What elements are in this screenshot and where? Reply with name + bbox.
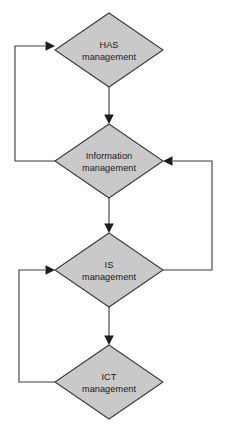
- arrowhead-into-is-top: [104, 224, 114, 234]
- edge-has-to-information: [104, 87, 114, 124]
- edge-information-to-has-feedback: [15, 41, 55, 161]
- edge-line-ict-to-is-feedback: [19, 270, 55, 382]
- node-ict-management[interactable]: ICT management: [55, 345, 163, 419]
- node-label-has-line1: HAS: [99, 40, 118, 50]
- arrowhead-into-information-right: [163, 156, 173, 166]
- edge-is-to-ict: [104, 307, 114, 345]
- node-label-ict-line2: management: [82, 384, 137, 394]
- diamond-shape-information[interactable]: [55, 124, 163, 198]
- node-label-has-line2: management: [82, 52, 137, 62]
- node-label-is-line2: management: [82, 272, 137, 282]
- edge-ict-to-is-feedback: [19, 265, 55, 382]
- diamond-shape-ict[interactable]: [55, 345, 163, 419]
- arrowhead-into-information-top: [104, 115, 114, 125]
- arrowhead-into-is-left: [46, 265, 56, 275]
- flowchart-canvas: HAS management Information management IS…: [0, 0, 228, 432]
- node-label-ict-line1: ICT: [102, 372, 117, 382]
- arrowhead-into-ict-top: [104, 336, 114, 346]
- node-label-is-line1: IS: [105, 260, 114, 270]
- edge-information-to-is: [104, 198, 114, 233]
- edge-line-information-to-has-feedback: [15, 46, 55, 161]
- edge-is-to-information-feedback: [163, 156, 212, 270]
- node-label-information-line2: management: [82, 163, 137, 173]
- node-has-management[interactable]: HAS management: [55, 13, 163, 87]
- node-is-management[interactable]: IS management: [55, 233, 163, 307]
- diamond-shape-is[interactable]: [55, 233, 163, 307]
- node-label-information-line1: Information: [86, 151, 133, 161]
- edge-line-is-to-information-feedback: [163, 161, 212, 270]
- flowchart-diagram: HAS management Information management IS…: [0, 0, 228, 432]
- node-information-management[interactable]: Information management: [55, 124, 163, 198]
- arrowhead-into-has-left: [46, 41, 56, 51]
- diamond-shape-has[interactable]: [55, 13, 163, 87]
